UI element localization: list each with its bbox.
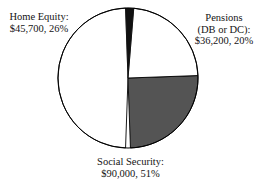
pie-label-pensions-subtype: (DB or DC): bbox=[188, 24, 260, 36]
pie-slice-social-security[interactable] bbox=[128, 76, 198, 148]
pie-label-home-equity-name: Home Equity: bbox=[1, 11, 77, 23]
pie-label-pensions: Pensions (DB or DC): $36,200, 20% bbox=[188, 12, 260, 47]
pie-label-pensions-name: Pensions bbox=[188, 12, 260, 24]
pie-label-pensions-value: $36,200, 20% bbox=[188, 35, 260, 47]
pie-label-social-security: Social Security: $90,000, 51% bbox=[0, 156, 261, 179]
pie-chart-figure: Home Equity: $45,700, 26% Pensions (DB o… bbox=[0, 0, 261, 184]
pie-label-home-equity: Home Equity: $45,700, 26% bbox=[1, 11, 77, 34]
pie-label-social-security-value: $90,000, 51% bbox=[0, 168, 261, 180]
pie-label-social-security-name: Social Security: bbox=[0, 156, 261, 168]
pie-label-home-equity-value: $45,700, 26% bbox=[1, 23, 77, 35]
